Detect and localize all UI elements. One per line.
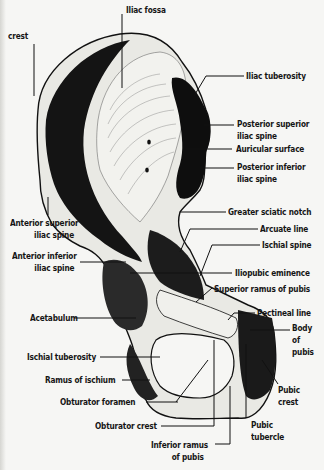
- label-arcuate-line: Arcuate line: [260, 223, 308, 235]
- label-obturator-crest: Obturator crest: [95, 420, 157, 432]
- label-greater-sciatic-notch: Greater sciatic notch: [228, 206, 311, 218]
- label-ischial-spine: Ischial spine: [262, 239, 311, 251]
- label-ischial-tuberosity: Ischial tuberosity: [27, 351, 96, 363]
- label-body-of-pubis: Body of pubis: [292, 322, 314, 358]
- label-auricular-surface: Auricular surface: [236, 143, 304, 155]
- label-iliac-tuberosity: Iliac tuberosity: [246, 70, 306, 82]
- label-anterior-superior-iliac-spine: Anterior superior iliac spine: [10, 217, 79, 241]
- pubis-body: [238, 310, 276, 399]
- label-pubic-tubercle: Pubic tubercle: [251, 419, 284, 443]
- label-acetabulum: Acetabulum: [30, 312, 78, 324]
- label-iliopubic-eminence: Iliopubic eminence: [235, 267, 310, 279]
- label-posterior-superior-iliac-spine: Posterior superior iliac spine: [237, 118, 309, 142]
- nutrient-foramen: [145, 168, 149, 173]
- nutrient-foramen: [147, 140, 151, 145]
- label-ramus-of-ischium: Ramus of ischium: [45, 374, 115, 386]
- label-inferior-ramus-of-pubis: Inferior ramus of pubis: [151, 439, 208, 463]
- anatomy-figure: crest Iliac fossa Iliac tuberosity Poste…: [0, 0, 324, 470]
- label-pubic-crest: Pubic crest: [278, 384, 300, 408]
- label-posterior-inferior-iliac-spine: Posterior inferior iliac spine: [237, 161, 305, 185]
- label-anterior-inferior-iliac-spine: Anterior inferior iliac spine: [12, 250, 77, 274]
- label-obturator-foramen: Obturator foramen: [60, 396, 135, 408]
- label-iliac-fossa: Iliac fossa: [126, 4, 166, 16]
- label-superior-ramus-of-pubis: Superior ramus of pubis: [214, 283, 310, 295]
- label-pectineal-line: Pectineal line: [257, 307, 311, 319]
- label-iliac-crest: crest: [8, 30, 28, 42]
- obturator-foramen-opening: [151, 334, 234, 398]
